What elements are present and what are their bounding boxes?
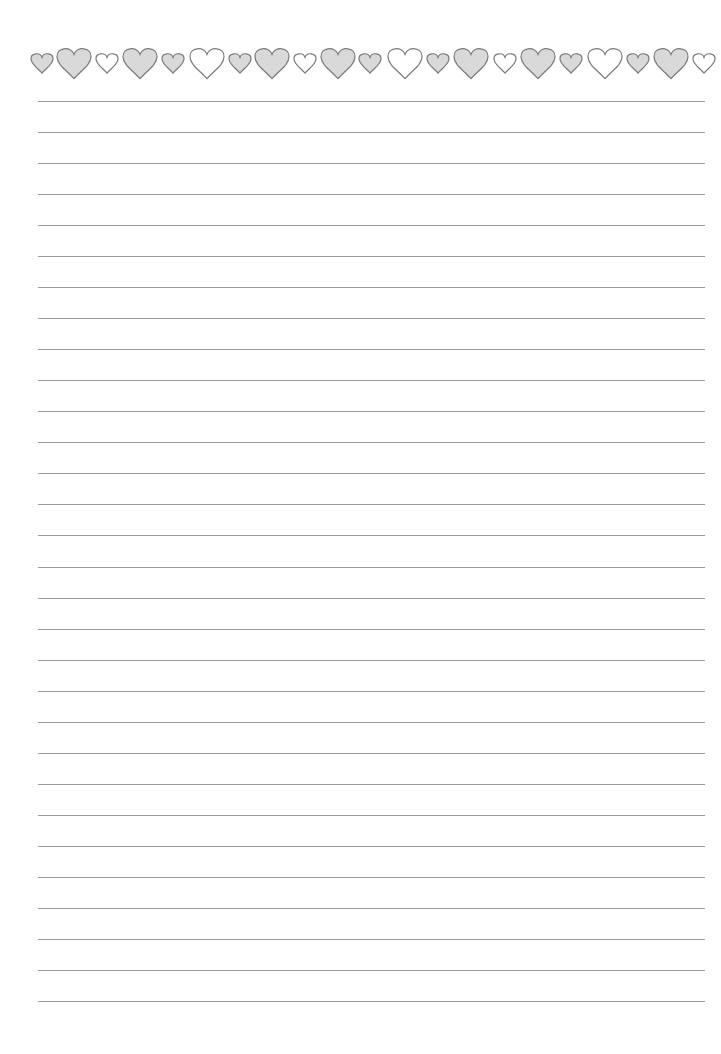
ruled-line [38,256,705,257]
ruled-line [38,535,705,536]
ruled-line [38,287,705,288]
ruled-line [38,815,705,816]
ruled-line [38,411,705,412]
ruled-line [38,629,705,630]
ruled-line [38,846,705,847]
ruled-line [38,567,705,568]
ruled-line [38,691,705,692]
writing-lines [0,0,721,1054]
ruled-line [38,225,705,226]
ruled-line [38,598,705,599]
ruled-line [38,504,705,505]
ruled-line [38,877,705,878]
ruled-line [38,1001,705,1002]
ruled-line [38,349,705,350]
ruled-line [38,132,705,133]
ruled-line [38,722,705,723]
ruled-line [38,473,705,474]
ruled-line [38,101,705,102]
ruled-line [38,753,705,754]
ruled-line [38,194,705,195]
ruled-line [38,784,705,785]
ruled-line [38,442,705,443]
ruled-line [38,908,705,909]
ruled-line [38,970,705,971]
ruled-line [38,318,705,319]
ruled-line [38,380,705,381]
ruled-line [38,660,705,661]
ruled-line [38,163,705,164]
ruled-line [38,939,705,940]
